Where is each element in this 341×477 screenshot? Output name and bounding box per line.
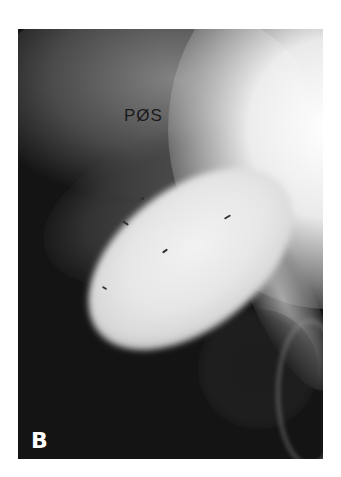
panel-label: B <box>31 428 48 453</box>
marker-dot <box>141 197 144 200</box>
pos-annotation: PØS <box>124 106 163 126</box>
radiograph-figure: PØS B <box>18 29 323 459</box>
